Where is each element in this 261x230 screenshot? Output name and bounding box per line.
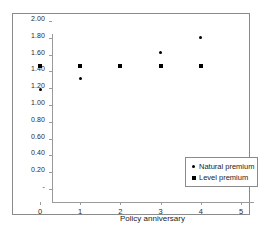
- data-point: [38, 64, 42, 68]
- legend-label: Level premium: [199, 173, 248, 182]
- legend-square-icon: [190, 172, 199, 183]
- legend-dot-icon: [190, 161, 199, 172]
- legend-entry: Natural premium: [190, 161, 253, 172]
- chart-legend: Natural premiumLevel premium: [185, 157, 258, 187]
- data-point: [118, 64, 122, 68]
- legend-label: Natural premium: [199, 162, 254, 171]
- scatter-chart-figure: -0.200.400.600.801.001.201.401.601.802.0…: [0, 0, 261, 230]
- chart-frame: -0.200.400.600.801.001.201.401.601.802.0…: [12, 13, 250, 215]
- data-point: [199, 36, 202, 39]
- legend-entry: Level premium: [190, 172, 253, 183]
- data-point: [159, 51, 162, 54]
- x-axis-title: Policy anniversary: [52, 214, 253, 224]
- data-point: [199, 64, 203, 68]
- data-point: [39, 88, 42, 91]
- data-point: [159, 64, 163, 68]
- data-point: [79, 77, 82, 80]
- data-point: [78, 64, 82, 68]
